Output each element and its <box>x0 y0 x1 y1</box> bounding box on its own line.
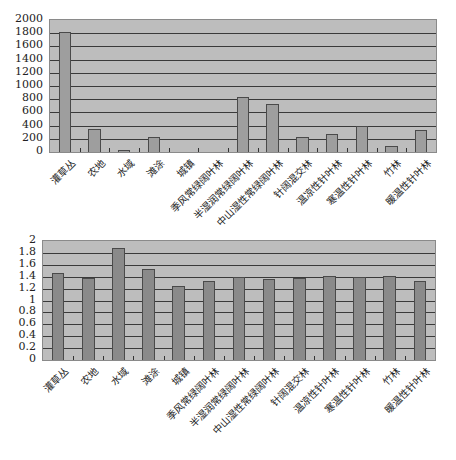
y-tick-label: 0.4 <box>0 329 36 341</box>
bar <box>172 286 185 360</box>
bar <box>88 129 100 152</box>
bar <box>52 273 65 360</box>
x-tick <box>198 148 199 152</box>
x-tick <box>103 356 104 360</box>
x-tick <box>345 356 346 360</box>
gridline <box>43 253 435 254</box>
y-tick-label: 1.4 <box>0 270 36 282</box>
x-tick <box>73 356 74 360</box>
x-tick <box>288 148 289 152</box>
bar <box>118 150 130 152</box>
x-tick-label: 水域 <box>113 155 138 180</box>
x-tick <box>164 356 165 360</box>
x-tick <box>169 148 170 152</box>
y-tick-label: 1800 <box>7 26 43 38</box>
bar <box>263 279 276 361</box>
y-tick-label: 1.2 <box>0 282 36 294</box>
bar <box>82 278 95 360</box>
y-tick-label: 2000 <box>7 13 43 25</box>
gridline <box>50 86 436 87</box>
bar <box>112 248 125 360</box>
bar <box>414 281 427 360</box>
x-tick <box>284 356 285 360</box>
x-tick <box>109 148 110 152</box>
y-tick-label: 1 <box>0 294 36 306</box>
x-tick <box>406 148 407 152</box>
y-tick-label: 1000 <box>7 79 43 91</box>
bar <box>148 137 160 152</box>
x-tick <box>375 356 376 360</box>
x-tick <box>258 148 259 152</box>
bar <box>266 104 278 153</box>
x-tick-label: 农地 <box>83 155 108 180</box>
bar <box>356 126 368 152</box>
x-tick <box>194 356 195 360</box>
x-tick-label: 水域 <box>107 363 132 388</box>
x-tick <box>314 356 315 360</box>
bar <box>142 269 155 360</box>
gridline <box>50 73 436 74</box>
x-tick-label: 滩涂 <box>137 363 162 388</box>
gridline <box>50 60 436 61</box>
y-tick-label: 800 <box>7 92 43 104</box>
y-tick-label: 0.2 <box>0 341 36 353</box>
y-tick-label: 200 <box>7 132 43 144</box>
x-tick <box>317 148 318 152</box>
x-tick <box>347 148 348 152</box>
bar <box>323 276 336 360</box>
x-tick-label: 城镇 <box>168 363 193 388</box>
y-tick-label: 1200 <box>7 66 43 78</box>
x-tick <box>133 356 134 360</box>
x-tick <box>228 148 229 152</box>
bar <box>353 277 366 360</box>
y-tick-label: 2 <box>0 234 36 246</box>
bar <box>203 281 216 360</box>
plot-area-bottom <box>42 240 436 361</box>
x-tick <box>224 356 225 360</box>
x-tick <box>377 148 378 152</box>
y-tick-label: 0 <box>0 353 36 365</box>
x-tick-label: 滩涂 <box>143 155 168 180</box>
x-tick <box>254 356 255 360</box>
y-tick-label: 1.8 <box>0 246 36 258</box>
bar <box>293 278 306 360</box>
plot-area-top <box>49 19 437 153</box>
x-tick-label: 竹林 <box>379 363 404 388</box>
x-tick <box>80 148 81 152</box>
bar <box>383 276 396 360</box>
gridline <box>50 46 436 47</box>
bar <box>296 137 308 152</box>
y-tick-label: 0.8 <box>0 305 36 317</box>
bar <box>59 32 71 152</box>
gridline <box>43 265 435 266</box>
x-tick-label: 灌草丛 <box>47 155 79 187</box>
bar <box>326 134 338 152</box>
x-tick <box>405 356 406 360</box>
y-tick-label: 600 <box>7 105 43 117</box>
x-tick-label: 农地 <box>77 363 102 388</box>
y-tick-label: 0 <box>7 145 43 157</box>
y-tick-label: 1600 <box>7 39 43 51</box>
x-tick <box>139 148 140 152</box>
x-tick-label: 灌草丛 <box>40 363 72 395</box>
bar <box>415 130 427 152</box>
y-tick-label: 1.6 <box>0 258 36 270</box>
bar <box>237 97 249 152</box>
y-tick-label: 1400 <box>7 53 43 65</box>
y-tick-label: 0.6 <box>0 317 36 329</box>
y-tick-label: 400 <box>7 119 43 131</box>
bar <box>385 146 397 152</box>
gridline <box>50 33 436 34</box>
bar <box>233 277 246 360</box>
